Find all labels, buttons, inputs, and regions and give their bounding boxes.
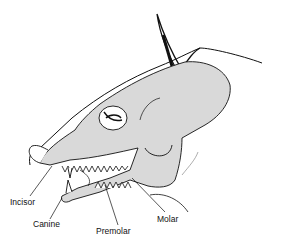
eye-orbit: [99, 106, 127, 130]
upper-canine: [68, 168, 72, 178]
label-canine: Canine: [33, 220, 60, 229]
lower-canine: [66, 180, 72, 193]
leader-premolar: [105, 185, 118, 225]
leader-incisor: [30, 166, 52, 196]
pig-skull-diagram: [0, 0, 283, 243]
label-molar: Molar: [157, 215, 178, 224]
label-incisor: Incisor: [10, 198, 35, 207]
label-premolar: Premolar: [96, 227, 130, 236]
leader-canine: [50, 198, 62, 219]
